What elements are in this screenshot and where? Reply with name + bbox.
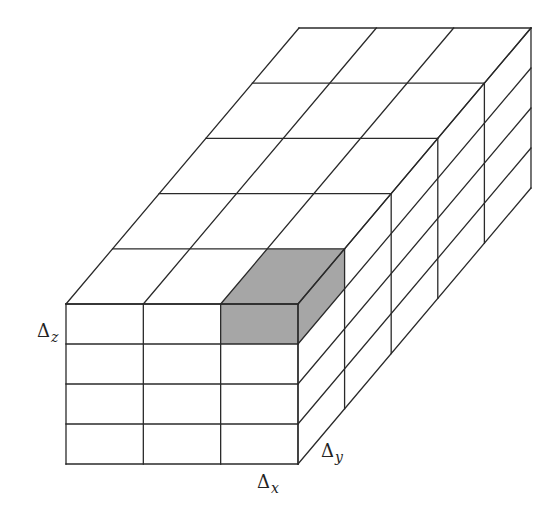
- highlighted-cell-front-face: [221, 304, 298, 344]
- delta-x-symbol: Δ: [257, 471, 270, 492]
- delta-z-subscript: z: [51, 329, 58, 345]
- delta-y-subscript: y: [335, 449, 343, 465]
- side-face-receding-line: [298, 188, 531, 464]
- delta-x-subscript: x: [271, 480, 279, 496]
- delta-y-symbol: Δ: [321, 440, 334, 461]
- delta-x-label: Δx: [257, 473, 279, 491]
- grid-diagram: [0, 0, 559, 521]
- side-face-receding-line: [298, 68, 531, 344]
- delta-y-label: Δy: [321, 442, 343, 460]
- grid-lines: [66, 28, 531, 464]
- side-face-receding-line: [298, 108, 531, 384]
- delta-z-label: Δz: [37, 322, 58, 340]
- delta-z-symbol: Δ: [37, 320, 50, 341]
- side-face-receding-line: [298, 28, 531, 304]
- grid-faces: [221, 249, 345, 344]
